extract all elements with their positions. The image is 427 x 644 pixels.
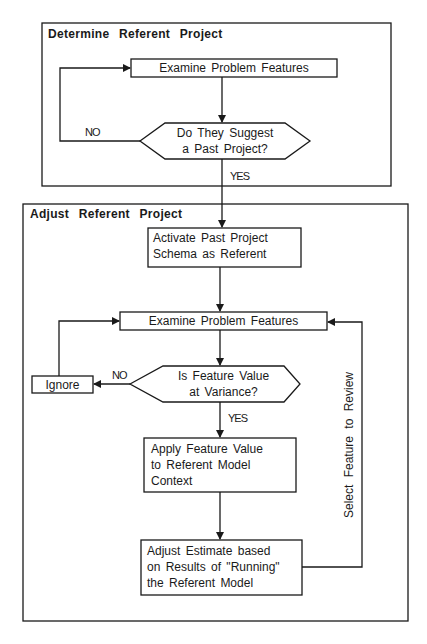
examine2-label: Examine Problem Features — [120, 313, 327, 329]
decision2-line1: Is Feature Value — [163, 368, 284, 384]
activate-line1: Activate Past Project — [153, 230, 299, 246]
section-title-determine: Determine Referent Project — [48, 27, 223, 41]
apply-line2: to Referent Model — [151, 457, 294, 473]
activate-label: Activate Past Project Schema as Referent — [153, 230, 299, 262]
adjust-estimate-line1: Adjust Estimate based — [147, 543, 301, 559]
adjust-estimate-label: Adjust Estimate based on Results of "Run… — [147, 543, 301, 591]
apply-line1: Apply Feature Value — [151, 441, 294, 457]
section-frame-determine — [42, 23, 391, 186]
edge-label-no1: NO — [85, 126, 100, 138]
ignore-label: Ignore — [32, 377, 93, 393]
apply-line3: Context — [151, 473, 294, 489]
section-title-adjust: Adjust Referent Project — [30, 207, 182, 221]
edge-label-no2: NO — [112, 369, 127, 381]
decision1-label: Do They Suggest a Past Project? — [165, 125, 285, 157]
decision2-line2: at Variance? — [163, 384, 284, 400]
adjust-estimate-line3: the Referent Model — [147, 575, 301, 591]
adjust-estimate-line2: on Results of "Running" — [147, 559, 301, 575]
edge-label-yes1: YES — [230, 170, 249, 182]
decision1-line1: Do They Suggest — [165, 125, 285, 141]
edge-label-yes2: YES — [228, 412, 247, 424]
activate-line2: Schema as Referent — [153, 246, 299, 262]
decision1-line2: a Past Project? — [165, 141, 285, 157]
edge-label-loop: Select Feature to Review — [342, 370, 356, 520]
apply-label: Apply Feature Value to Referent Model Co… — [151, 441, 294, 489]
examine1-label: Examine Problem Features — [131, 60, 337, 76]
decision2-label: Is Feature Value at Variance? — [163, 368, 284, 400]
